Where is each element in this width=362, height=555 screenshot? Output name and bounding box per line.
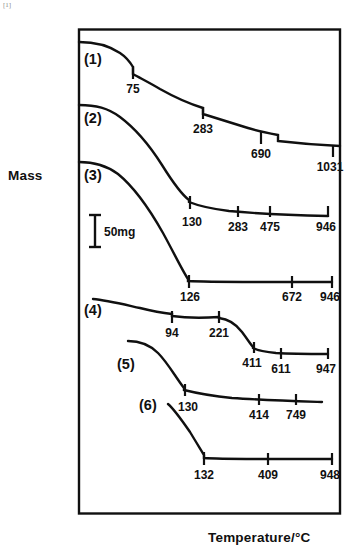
curve-4-label-94: 94 bbox=[165, 326, 179, 340]
curve-2-label-475: 475 bbox=[260, 220, 280, 234]
curve-5-name: (5) bbox=[117, 356, 135, 372]
curve-3-label-672: 672 bbox=[282, 290, 302, 304]
curve-2-label-130: 130 bbox=[182, 215, 202, 229]
curve-4-label-221: 221 bbox=[209, 326, 229, 340]
curve-2-name: (2) bbox=[84, 110, 102, 126]
curve-6-name: (6) bbox=[139, 397, 157, 413]
scale-bar: 50mg bbox=[89, 215, 135, 247]
curve-3-name: (3) bbox=[84, 167, 102, 183]
curve-1-label-1031: 1031 bbox=[317, 160, 344, 174]
curve-6-label-948: 948 bbox=[320, 468, 340, 482]
curve-5-label-130: 130 bbox=[178, 400, 198, 414]
y-axis-title: Mass bbox=[8, 168, 43, 183]
curve-6-label-409: 409 bbox=[258, 468, 278, 482]
tga-figure: [1] Mass Temperature/°C 75 283 690 1031 … bbox=[0, 0, 362, 555]
curve-5-path bbox=[128, 341, 322, 402]
curve-4-label-411: 411 bbox=[242, 356, 262, 370]
curve-3-label-126: 126 bbox=[180, 290, 200, 304]
curve-1-name: (1) bbox=[84, 51, 102, 67]
curve-5-label-414: 414 bbox=[249, 408, 269, 422]
scale-bar-label: 50mg bbox=[104, 225, 135, 239]
curve-2-label-946: 946 bbox=[316, 220, 336, 234]
plot-area: 75 283 690 1031 (1) 130 283 475 946 (2) … bbox=[0, 0, 362, 555]
curve-1-label-690: 690 bbox=[251, 147, 271, 161]
curve-1: 75 283 690 1031 (1) bbox=[79, 42, 344, 174]
curve-4-label-947: 947 bbox=[316, 362, 336, 376]
corner-mark: [1] bbox=[3, 1, 11, 9]
curve-4-name: (4) bbox=[84, 302, 102, 318]
curve-3-label-946: 946 bbox=[320, 290, 340, 304]
curve-1-label-75: 75 bbox=[126, 82, 140, 96]
curve-4-label-611: 611 bbox=[271, 362, 291, 376]
curve-3-path bbox=[79, 162, 332, 282]
curve-6: 132 409 948 (6) bbox=[139, 397, 340, 482]
curve-1-label-283: 283 bbox=[193, 122, 213, 136]
x-axis-title: Temperature/°C bbox=[208, 530, 310, 545]
curve-5-label-749: 749 bbox=[286, 408, 306, 422]
curve-6-label-132: 132 bbox=[194, 468, 214, 482]
plot-frame bbox=[79, 30, 340, 514]
curve-2-label-283: 283 bbox=[228, 220, 248, 234]
